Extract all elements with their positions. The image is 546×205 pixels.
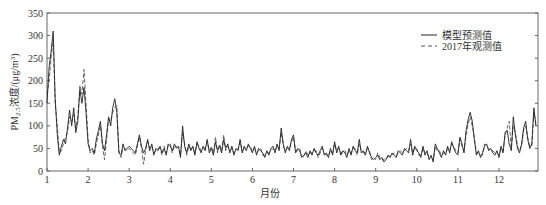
chart-svg: 050100150200250300350 123456789101112 PM… [0, 0, 546, 205]
y-axis-label: PM2.5浓度/(μg/m3) [8, 53, 22, 130]
x-tick-label: 7 [291, 174, 296, 185]
x-tick-label: 4 [168, 174, 173, 185]
x-tick-label: 6 [250, 174, 255, 185]
y-tick-label: 250 [28, 53, 43, 64]
x-tick-label: 11 [453, 174, 463, 185]
legend-label-observed: 2017年观测值 [442, 40, 502, 52]
legend: 模型预测值 2017年观测值 [421, 29, 502, 52]
x-tick-label: 9 [373, 174, 378, 185]
y-tick-label: 300 [28, 30, 43, 41]
x-tick-label: 8 [332, 174, 337, 185]
pm25-line-chart: 050100150200250300350 123456789101112 PM… [0, 0, 546, 205]
x-axis-label: 月份 [260, 188, 280, 199]
x-tick-label: 12 [494, 174, 504, 185]
legend-label-model: 模型预测值 [442, 29, 492, 41]
x-tick-label: 5 [209, 174, 214, 185]
y-tick-label: 0 [38, 166, 43, 177]
x-tick-label: 3 [127, 174, 132, 185]
y-tick-label: 150 [28, 98, 43, 109]
y-tick-label: 100 [28, 120, 43, 131]
x-tick-label: 2 [86, 174, 91, 185]
x-tick-label: 1 [45, 174, 50, 185]
y-tick-label: 350 [28, 8, 43, 19]
y-tick-label: 50 [33, 143, 43, 154]
y-tick-label: 200 [28, 75, 43, 86]
x-tick-label: 10 [412, 174, 422, 185]
